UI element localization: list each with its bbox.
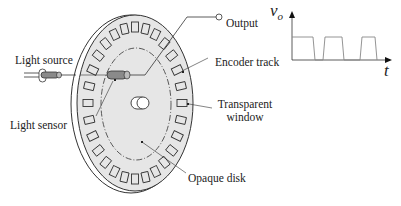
transparent-window — [177, 100, 187, 107]
transparent-window — [132, 22, 139, 32]
waveform-y-label: vo — [270, 4, 283, 23]
output-waveform — [289, 11, 392, 63]
light-source-icon — [24, 69, 76, 82]
light-source-label: Light source — [15, 54, 73, 67]
hub-icon — [131, 97, 149, 109]
transparent-window — [132, 174, 139, 184]
waveform-x-label: t — [384, 64, 389, 77]
output-label: Output — [226, 17, 258, 30]
transparent-window — [83, 100, 93, 107]
transparent-window-line1: Transparent — [212, 98, 278, 111]
waveform-y-subscript: o — [278, 10, 284, 22]
transparent-window-line2: window — [212, 111, 278, 124]
waveform-y-symbol: v — [270, 1, 278, 20]
encoder-track-label: Encoder track — [215, 56, 279, 69]
output-terminal — [216, 14, 222, 20]
light-sensor-label: Light sensor — [10, 119, 67, 132]
opaque-disk-label: Opaque disk — [188, 172, 246, 185]
transparent-window-label: Transparent window — [212, 98, 278, 124]
